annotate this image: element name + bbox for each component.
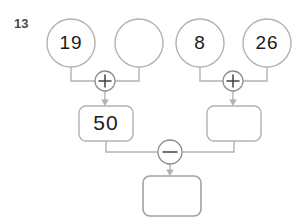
circle-4-value: 26 [255, 32, 278, 53]
circle-3-value: 8 [194, 32, 206, 53]
connector-box-left-to-minus [106, 141, 158, 152]
connector-circle1-to-plus-left [71, 67, 95, 81]
connector-circle2-to-plus-left [115, 67, 139, 81]
top-row-circles: 19 8 26 [47, 19, 291, 67]
middle-row-boxes: 50 [79, 106, 261, 141]
circle-2[interactable] [115, 19, 163, 67]
box-right-result[interactable] [207, 106, 261, 141]
circle-1-value: 19 [59, 32, 82, 53]
worksheet-canvas: 13 19 [0, 0, 305, 223]
arrowhead-plus-right-to-box [229, 99, 237, 106]
arrowhead-minus-to-answer [166, 169, 174, 176]
box-final-answer[interactable] [143, 176, 201, 216]
connector-circle3-to-plus-right [200, 67, 223, 81]
operator-subtract [158, 140, 182, 164]
operator-add-right [223, 71, 243, 91]
connector-circle4-to-plus-right [243, 67, 267, 81]
box-left-result-value: 50 [93, 111, 118, 134]
arrowhead-plus-left-to-box [101, 99, 109, 106]
number-bond-diagram: 19 8 26 50 [0, 0, 305, 223]
connector-box-right-to-minus [182, 141, 234, 152]
operator-add-left [95, 71, 115, 91]
answer-box-group [143, 176, 201, 216]
